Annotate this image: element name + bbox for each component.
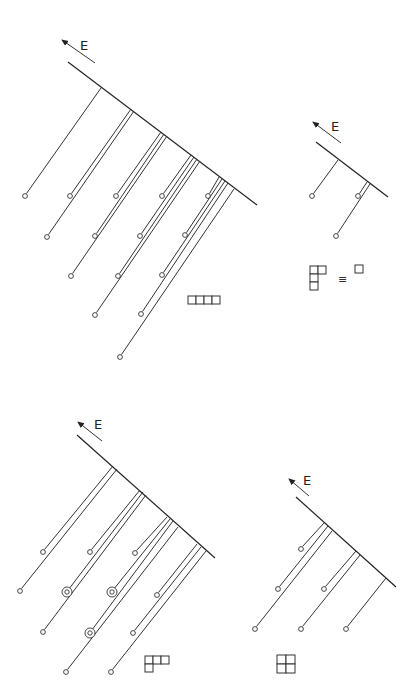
state-circle-icon	[299, 627, 304, 632]
single-box-tableau	[355, 265, 363, 273]
state-circle-icon	[41, 630, 46, 635]
state-circle-icon	[114, 194, 119, 199]
level-line	[22, 469, 118, 589]
tableau-cell	[310, 266, 318, 274]
baseline	[316, 142, 388, 197]
tableau-cell	[145, 664, 153, 672]
level-line	[45, 466, 114, 550]
level-line	[314, 160, 339, 194]
stem-group	[45, 109, 134, 239]
state-circle-icon	[64, 670, 69, 675]
panel-top-right: E≡	[310, 119, 388, 290]
state-circle-icon	[65, 590, 69, 594]
state-circle-icon	[69, 274, 74, 279]
tableau-cell	[204, 296, 212, 304]
tableau-cell	[212, 296, 220, 304]
level-line	[143, 183, 229, 312]
state-circle-icon	[138, 234, 143, 239]
tableau-cell	[318, 266, 326, 274]
tableau-cell	[161, 656, 169, 664]
stem-group	[299, 551, 360, 631]
level-line	[187, 179, 223, 233]
level-line	[118, 132, 162, 194]
tableau-cell	[196, 296, 204, 304]
state-circle-icon	[160, 273, 165, 278]
state-circle-icon	[139, 312, 144, 317]
state-circle-icon	[155, 593, 160, 598]
state-circle-icon	[45, 235, 50, 240]
level-line	[280, 526, 329, 587]
state-circle-icon	[131, 631, 136, 636]
tableau-cell	[188, 296, 196, 304]
stem-group	[69, 132, 167, 278]
young-tableau	[277, 655, 295, 673]
level-line	[114, 519, 171, 590]
level-line	[122, 189, 235, 355]
state-circle-icon	[334, 234, 339, 239]
state-circle-icon	[88, 550, 93, 555]
stem-group	[109, 544, 206, 674]
level-line	[72, 109, 132, 194]
level-line	[49, 111, 135, 235]
level-line	[45, 495, 147, 630]
level-line	[257, 531, 333, 627]
baseline	[296, 497, 396, 587]
level-line	[338, 184, 371, 234]
level-line	[120, 159, 198, 274]
stem-group	[118, 177, 234, 359]
state-circle-icon	[310, 194, 315, 199]
level-line	[68, 527, 179, 670]
stem-group	[64, 517, 178, 674]
state-circle-icon	[109, 670, 114, 675]
tableau-cell	[286, 664, 295, 673]
tableau-cell	[286, 655, 295, 664]
state-circle-icon	[276, 587, 281, 592]
diagram-canvas: E E≡ E E	[0, 0, 420, 698]
level-line	[113, 551, 207, 670]
state-circle-icon	[110, 590, 114, 594]
level-line	[303, 555, 361, 627]
tableau-cell	[145, 656, 153, 664]
level-line	[159, 544, 198, 593]
level-line	[348, 578, 387, 627]
state-circle-icon	[41, 550, 46, 555]
state-circle-icon	[68, 194, 73, 199]
equivalence-symbol: ≡	[338, 273, 347, 286]
state-circle-icon	[322, 587, 327, 592]
state-circle-icon	[18, 589, 23, 594]
tableau-cell	[310, 282, 318, 290]
state-circle-icon	[93, 313, 98, 318]
young-tableau	[145, 656, 169, 672]
panel-top-left: E	[23, 38, 257, 359]
energy-axis-label: E	[80, 38, 88, 53]
energy-axis-label: E	[303, 473, 311, 488]
level-line	[27, 88, 102, 194]
tableau-cell	[153, 656, 161, 664]
tableau-cell	[277, 664, 286, 673]
baseline	[68, 62, 257, 205]
energy-arrow-icon	[62, 40, 95, 63]
stem-group	[41, 490, 146, 634]
young-tableau	[310, 266, 326, 290]
state-circle-icon	[183, 233, 188, 238]
state-circle-icon	[118, 355, 123, 360]
state-circle-icon	[344, 627, 349, 632]
state-circle-icon	[253, 627, 258, 632]
energy-axis-label: E	[94, 417, 102, 432]
stem-group	[310, 160, 338, 198]
state-circle-icon	[116, 274, 121, 279]
energy-axis-label: E	[331, 119, 339, 134]
level-line	[92, 521, 174, 631]
panel-bottom-left: E	[18, 417, 215, 674]
level-line	[326, 551, 357, 587]
level-line	[137, 517, 168, 551]
level-line	[360, 182, 368, 194]
level-line	[92, 490, 141, 550]
level-line	[73, 136, 168, 274]
stem-group	[334, 182, 370, 238]
stem-group	[18, 466, 117, 593]
state-circle-icon	[299, 547, 304, 552]
state-circle-icon	[356, 194, 361, 199]
tableau-cell	[277, 655, 286, 664]
state-circle-icon	[88, 631, 92, 635]
